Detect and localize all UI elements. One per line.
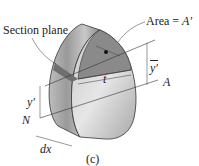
label-area-text: Area = — [146, 14, 182, 28]
figure-caption: (c) — [86, 153, 99, 165]
diagram-canvas: Section plane Area = A′ t y′ A y′ N dx (… — [0, 0, 199, 166]
label-t: t — [103, 73, 106, 85]
label-N: N — [22, 114, 30, 126]
label-area-symbol: A′ — [182, 14, 192, 28]
label-section-plane: Section plane — [3, 24, 68, 36]
label-y-prime: y′ — [27, 96, 35, 108]
label-dx: dx — [40, 143, 51, 155]
label-A: A — [163, 76, 170, 88]
label-area: Area = A′ — [146, 15, 192, 27]
label-ybar: y′ — [150, 62, 158, 74]
